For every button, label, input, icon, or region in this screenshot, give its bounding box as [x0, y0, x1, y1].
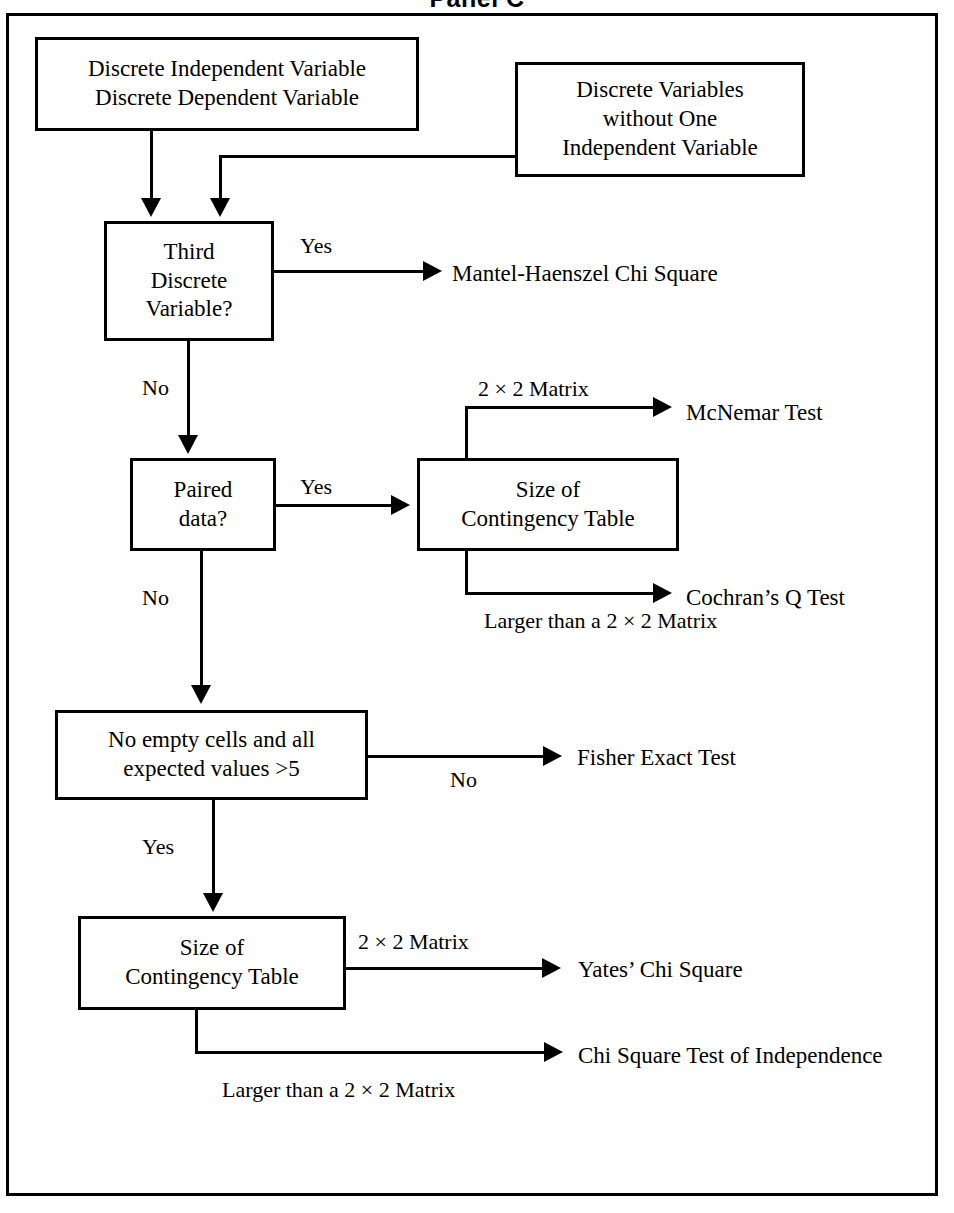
node-no-empty-cells-line2: expected values >5 — [123, 755, 299, 784]
arrowhead-paired-no — [191, 685, 211, 704]
edge-label-paired-no: No — [142, 584, 169, 612]
terminal-chi-square-line1: Chi Square — [578, 1043, 681, 1068]
node-size-contingency-table-paired-line1: Size of — [516, 476, 581, 505]
edge-label-larger-than-2x2-paired-line2: 2 × 2 Matrix — [606, 608, 717, 633]
node-third-discrete-variable-line1: Third — [163, 238, 214, 267]
edge-label-larger-than-2x2-paired: Larger than a 2 × 2 Matrix — [484, 607, 717, 635]
arrowhead-paired-yes — [391, 495, 410, 515]
edge-label-2x2-matrix-unpaired: 2 × 2 Matrix — [358, 928, 469, 956]
connector-box1-to-third-discrete — [150, 131, 153, 200]
node-paired-data: Paired data? — [130, 458, 276, 551]
arrowhead-fisher-exact — [543, 746, 562, 766]
connector-box2-vertical — [219, 155, 222, 200]
node-discrete-without-one-iv-line2: without One — [603, 105, 717, 134]
terminal-yates-chi-square: Yates’ Chi Square — [578, 955, 743, 985]
node-third-discrete-variable: Third Discrete Variable? — [104, 221, 274, 341]
connector-paired-no — [200, 551, 203, 687]
node-no-empty-cells-line1: No empty cells and all — [108, 726, 315, 755]
connector-unpaired-2x2 — [346, 967, 544, 970]
node-discrete-iv-dv-line1: Discrete Independent Variable — [88, 55, 366, 84]
edge-label-third-discrete-no: No — [142, 374, 169, 402]
node-size-contingency-table-paired-line2: Contingency Table — [461, 505, 635, 534]
connector-paired-larger-horizontal — [465, 592, 655, 595]
arrowhead-third-discrete-no — [178, 435, 198, 454]
node-paired-data-line2: data? — [179, 505, 228, 534]
edge-label-2x2-matrix-paired: 2 × 2 Matrix — [478, 375, 589, 403]
node-discrete-without-one-iv-line3: Independent Variable — [562, 134, 758, 163]
terminal-mcnemar-test: McNemar Test — [686, 398, 823, 428]
arrowhead-mcnemar — [653, 397, 672, 417]
connector-unpaired-larger-vertical — [195, 1008, 198, 1054]
edge-label-no-empty-cells-no: No — [450, 766, 477, 794]
connector-no-empty-cells-yes — [212, 800, 215, 895]
connector-third-discrete-no — [187, 341, 190, 437]
node-size-contingency-table-unpaired-line2: Contingency Table — [125, 963, 299, 992]
node-discrete-without-one-iv: Discrete Variables without One Independe… — [515, 62, 805, 177]
arrowhead-box2-to-third-discrete — [210, 198, 230, 217]
arrowhead-no-empty-cells-yes — [203, 893, 223, 912]
terminal-fisher-exact-test: Fisher Exact Test — [577, 743, 736, 773]
terminal-chi-square-test-of-independence: Chi Square Test of Independence — [578, 1041, 883, 1071]
node-size-contingency-table-unpaired: Size of Contingency Table — [78, 916, 346, 1010]
edge-label-third-discrete-yes: Yes — [300, 232, 332, 260]
node-size-contingency-table-unpaired-line1: Size of — [180, 934, 245, 963]
edge-label-paired-yes: Yes — [300, 473, 332, 501]
node-no-empty-cells: No empty cells and all expected values >… — [55, 710, 368, 800]
node-size-contingency-table-paired: Size of Contingency Table — [417, 458, 679, 551]
node-discrete-without-one-iv-line1: Discrete Variables — [576, 76, 744, 105]
connector-paired-2x2-vertical — [465, 406, 468, 461]
connector-third-discrete-yes — [274, 270, 425, 273]
node-paired-data-line1: Paired — [174, 476, 233, 505]
panel-title: Panel C — [0, 0, 954, 13]
edge-label-larger-than-2x2-unpaired: Larger than a 2 × 2 Matrix — [222, 1076, 455, 1104]
terminal-mantel-haenszel-chi-square: Mantel-Haenszel Chi Square — [452, 259, 718, 289]
edge-label-no-empty-cells-yes: Yes — [142, 833, 174, 861]
connector-box2-horizontal — [219, 155, 517, 158]
arrowhead-third-discrete-yes — [423, 261, 442, 281]
terminal-chi-square-line2: Test of Independence — [686, 1043, 882, 1068]
connector-paired-2x2-horizontal — [465, 406, 655, 409]
node-third-discrete-variable-line3: Variable? — [146, 295, 233, 324]
arrowhead-yates-chi-square — [542, 958, 561, 978]
connector-no-empty-cells-no — [368, 755, 545, 758]
flowchart-page: Panel C Discrete Independent Variable Di… — [0, 0, 954, 1213]
edge-label-larger-than-2x2-paired-line1: Larger than a — [484, 608, 601, 633]
node-discrete-iv-dv-line2: Discrete Dependent Variable — [95, 84, 359, 113]
arrowhead-cochrans-q — [653, 583, 672, 603]
arrowhead-box1-to-third-discrete — [141, 198, 161, 217]
node-third-discrete-variable-line2: Discrete — [151, 267, 228, 296]
connector-unpaired-larger-horizontal — [195, 1051, 546, 1054]
connector-paired-larger-vertical — [465, 548, 468, 595]
arrowhead-chi-square-independence — [544, 1042, 563, 1062]
connector-paired-yes — [276, 504, 393, 507]
node-discrete-iv-dv: Discrete Independent Variable Discrete D… — [35, 37, 419, 131]
